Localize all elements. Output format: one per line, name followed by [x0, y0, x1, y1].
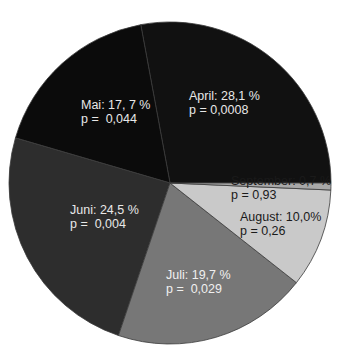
- slice-label-september: September: 0,7 %p = 0,93: [231, 174, 331, 202]
- slice-label-august: August: 10,0%p = 0,26: [240, 210, 321, 238]
- slice-label-juli: Juli: 19,7 %p = 0,029: [166, 268, 231, 296]
- slice-percent-text: Juli: 19,7 %: [166, 268, 231, 282]
- slice-percent-text: August: 10,0%: [240, 210, 321, 224]
- slice-percent-text: Mai: 17, 7 %: [81, 98, 150, 112]
- slice-p-value-text: p = 0,004: [70, 217, 139, 231]
- slice-label-mai: Mai: 17, 7 %p = 0,044: [81, 98, 150, 126]
- slice-p-value-text: p = 0,0008: [189, 103, 260, 117]
- slice-p-value-text: p = 0,044: [81, 112, 150, 126]
- slice-percent-text: Juni: 24,5 %: [70, 203, 139, 217]
- slice-percent-text: April: 28,1 %: [189, 89, 260, 103]
- slice-p-value-text: p = 0,93: [231, 188, 331, 202]
- slice-p-value-text: p = 0,029: [166, 282, 231, 296]
- slice-p-value-text: p = 0,26: [240, 224, 321, 238]
- slice-label-april: April: 28,1 %p = 0,0008: [189, 89, 260, 117]
- slice-label-juni: Juni: 24,5 %p = 0,004: [70, 203, 139, 231]
- slice-percent-text: September: 0,7 %: [231, 174, 331, 188]
